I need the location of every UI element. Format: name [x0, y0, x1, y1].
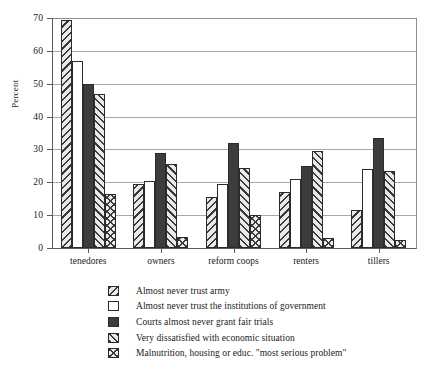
legend-label: Very dissatisfied with economic situatio…: [136, 333, 295, 343]
x-axis-tick-label: tenedores: [70, 256, 106, 266]
legend-label: Almost never trust army: [136, 286, 230, 296]
bar: [72, 61, 83, 248]
bar-group: [133, 18, 188, 248]
bar: [144, 181, 155, 248]
legend-swatch: [108, 286, 119, 296]
y-axis-tick-label: 70: [33, 13, 43, 23]
x-axis-tick-label: renters: [293, 256, 319, 266]
bar-group: [61, 18, 116, 248]
bar: [61, 20, 72, 248]
y-axis-tick-label: 30: [33, 144, 43, 154]
legend-label: Malnutrition, housing or educ. "most ser…: [136, 348, 346, 358]
x-axis-tick-mark: [234, 248, 235, 253]
y-axis-tick-label: 40: [33, 112, 43, 122]
bar: [362, 169, 373, 248]
bar: [395, 240, 406, 248]
bar-group: [351, 18, 406, 248]
legend-swatch: [108, 301, 119, 311]
bar: [217, 184, 228, 248]
bar: [279, 192, 290, 248]
legend-swatch: [108, 333, 119, 343]
x-axis-tick-mark: [379, 248, 380, 253]
bar-group: [279, 18, 334, 248]
bar: [94, 94, 105, 248]
bar: [373, 138, 384, 248]
x-axis-tick-mark: [306, 248, 307, 253]
legend-item: Malnutrition, housing or educ. "most ser…: [108, 345, 428, 361]
x-axis-tick-label: reform coops: [208, 256, 258, 266]
bar: [312, 151, 323, 248]
bar: [166, 164, 177, 248]
bar: [83, 84, 94, 248]
legend-label: Courts almost never grant fair trials: [136, 317, 273, 327]
y-axis-tick-label: 0: [38, 243, 43, 253]
bar: [133, 184, 144, 248]
x-axis-tick-label: tillers: [368, 256, 390, 266]
bar: [290, 179, 301, 248]
bar-chart-figure: Percent 010203040506070 tenedoresownersr…: [0, 0, 438, 372]
bar: [250, 215, 261, 248]
bar: [301, 166, 312, 248]
x-axis-tick-mark: [88, 248, 89, 253]
bar: [206, 197, 217, 248]
bar: [177, 237, 188, 249]
legend-item: Almost never trust army: [108, 283, 428, 299]
x-axis-tick-layer: tenedoresownersreform coopsrenterstiller…: [52, 248, 415, 272]
bar: [155, 153, 166, 248]
bar: [105, 194, 116, 248]
bar-group: [206, 18, 261, 248]
bar: [384, 171, 395, 248]
bar: [239, 168, 250, 249]
bars-layer: [52, 18, 415, 248]
legend-item: Very dissatisfied with economic situatio…: [108, 330, 428, 346]
x-axis-tick-mark: [161, 248, 162, 253]
x-axis-tick-label: owners: [147, 256, 174, 266]
chart-legend: Almost never trust armyAlmost never trus…: [108, 283, 428, 361]
legend-swatch: [108, 317, 119, 327]
legend-swatch: [108, 348, 119, 358]
y-axis-tick-label: 50: [33, 79, 43, 89]
legend-label: Almost never trust the institutions of g…: [136, 301, 326, 311]
y-axis-tick-label: 60: [33, 46, 43, 56]
bar: [351, 210, 362, 248]
y-axis-tick-layer: 010203040506070: [0, 18, 52, 248]
y-axis-tick-label: 20: [33, 177, 43, 187]
y-axis-tick-label: 10: [33, 210, 43, 220]
bar: [323, 238, 334, 248]
legend-item: Courts almost never grant fair trials: [108, 314, 428, 330]
legend-item: Almost never trust the institutions of g…: [108, 299, 428, 315]
bar: [228, 143, 239, 248]
